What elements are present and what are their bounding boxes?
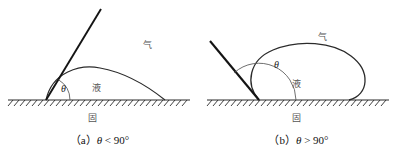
solid-label-a: 固 [88,114,97,123]
substrate-hatching-a [8,100,187,106]
liquid-label-a: 液 [92,84,101,93]
caption-b-prefix: （b） [268,134,296,146]
panel-b: θ 气 液 固 （b）θ > 90° [199,0,398,159]
caption-b-symbol: θ [296,134,301,146]
caption-a: （a）θ < 90° [0,134,199,147]
caption-b-relation: > 90° [304,134,328,146]
panel-a-drawing [0,0,199,133]
panel-a: θ 气 液 固 （a）θ < 90° [0,0,199,159]
caption-a-prefix: （a） [70,134,97,146]
angle-label-a: θ [61,84,66,94]
contact-angle-figure: θ 气 液 固 （a）θ < 90° [0,0,398,159]
liquid-label-b: 液 [292,80,301,89]
substrate-hatching-b [207,100,386,106]
tangent-line-b [210,41,259,100]
caption-a-symbol: θ [97,134,102,146]
solid-label-b: 固 [292,114,301,123]
gas-label-b: 气 [318,33,327,42]
caption-b: （b）θ > 90° [199,134,398,147]
gas-label-a: 气 [143,41,152,50]
droplet-curve-b [251,43,365,100]
caption-a-relation: < 90° [105,134,129,146]
angle-label-b: θ [274,60,279,70]
